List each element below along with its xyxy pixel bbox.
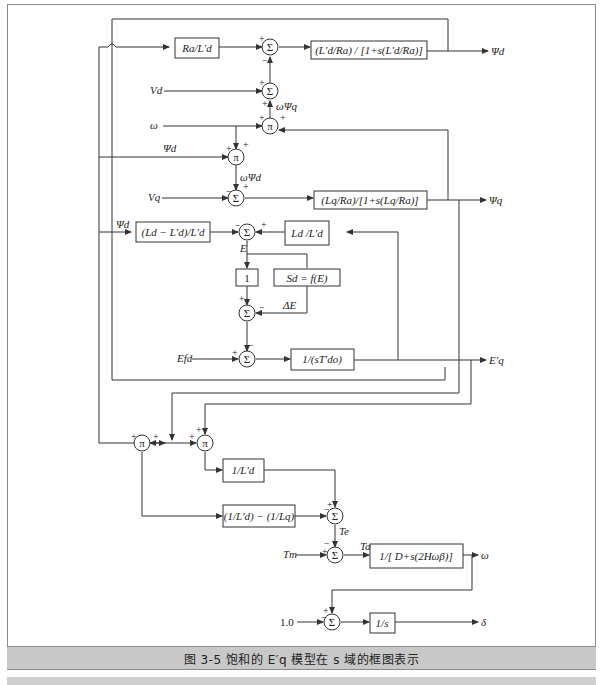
label-te: Te xyxy=(339,525,349,537)
block-field-transfer: 1/(sT′do) xyxy=(291,349,354,370)
label-omega-out: ω xyxy=(481,549,489,561)
label-tm-in: Tm xyxy=(283,548,297,560)
svg-text:+: + xyxy=(262,98,268,109)
svg-text:1/(sT′do): 1/(sT′do) xyxy=(302,353,342,366)
block-swing-equation: 1/[ D+s(2Hωβ)] xyxy=(370,544,463,568)
label-one-in: 1.0 xyxy=(280,616,294,628)
svg-text:−: − xyxy=(321,612,327,623)
sum-node-delta-e: Σ xyxy=(239,305,255,321)
label-psi-d-in: Ψd xyxy=(163,142,177,154)
label-delta-out: δ xyxy=(481,616,487,628)
block-integrator: 1/s xyxy=(370,613,395,633)
wire-left-psi-d-bus xyxy=(99,47,165,443)
svg-text:Σ: Σ xyxy=(233,192,239,204)
sum-node-efd: Σ xyxy=(239,351,255,367)
svg-text:+: + xyxy=(196,424,202,435)
svg-text:+: + xyxy=(232,347,238,358)
label-ta: Ta xyxy=(360,540,371,552)
block-psi-d-transfer: (L′d/Ra) / [1+s(L′d/Ra)] xyxy=(311,41,427,59)
label-vd-in: Vd xyxy=(150,84,163,96)
svg-text:+: + xyxy=(243,139,249,150)
block-inv-ld: 1/L′d xyxy=(223,459,264,482)
svg-text:(1/L′d) − (1/Lq): (1/L′d) − (1/Lq) xyxy=(224,510,295,523)
svg-text:+: + xyxy=(259,77,265,88)
svg-text:−: − xyxy=(226,186,232,197)
svg-text:1/[ D+s(2Hωβ)]: 1/[ D+s(2Hωβ)] xyxy=(379,550,453,563)
svg-text:+: + xyxy=(153,431,159,442)
caption-text: 图 3-5 饱和的 E′q 模型在 s 域的框图表示 xyxy=(184,650,420,667)
sum-node-ta: Σ xyxy=(327,547,343,563)
svg-text:Σ: Σ xyxy=(329,616,335,628)
svg-text:Σ: Σ xyxy=(267,41,273,53)
svg-text:Σ: Σ xyxy=(267,85,273,97)
block-ld-diff: (Ld − L′d)/L′d xyxy=(136,222,210,242)
node-signs: + − + + + + + + − + − + + − + − + + + + … xyxy=(131,33,333,623)
svg-text:−: − xyxy=(262,55,268,66)
label-omega-psi-d: ωΨd xyxy=(240,171,262,183)
svg-text:1/s: 1/s xyxy=(376,617,389,629)
block-psi-q-transfer: (Lq/Ra)/[1+s(Lq/Ra)] xyxy=(314,191,427,209)
block-unity: 1 xyxy=(236,269,258,286)
svg-text:(Ld − L′d)/L′d: (Ld − L′d)/L′d xyxy=(142,226,205,239)
svg-text:Σ: Σ xyxy=(244,307,250,319)
svg-text:Σ: Σ xyxy=(332,549,338,561)
svg-text:+: + xyxy=(327,499,333,510)
label-eq-out: E′q xyxy=(488,354,504,366)
svg-text:+: + xyxy=(189,431,195,442)
block-ld-ratio: Ld /L′d xyxy=(285,221,329,245)
label-efd-in: Efd xyxy=(176,352,193,364)
svg-text:−: − xyxy=(248,340,254,351)
wire-ra-input xyxy=(99,44,169,47)
svg-text:+: + xyxy=(322,546,328,557)
label-omega-psi-q: ωΨq xyxy=(276,100,298,112)
label-vq-in: Vq xyxy=(148,191,161,203)
block-ld-lq-diff: (1/L′d) − (1/Lq) xyxy=(223,505,295,527)
sum-node-e: Σ xyxy=(239,224,255,240)
label-psi-d-out: Ψd xyxy=(491,45,505,57)
svg-text:(L′d/Ra) / [1+s(L′d/Ra)]: (L′d/Ra) / [1+s(L′d/Ra)] xyxy=(315,44,423,57)
label-delta-e: ΔE xyxy=(282,299,296,311)
block-ra-over-ld: Ra/L′d xyxy=(175,38,219,58)
svg-text:+: + xyxy=(226,143,232,154)
label-e: E xyxy=(239,242,247,254)
svg-text:1/L′d: 1/L′d xyxy=(232,464,255,476)
mul-node-right: π xyxy=(197,435,213,451)
svg-text:+: + xyxy=(261,219,267,230)
svg-text:−: − xyxy=(235,220,241,231)
svg-text:Σ: Σ xyxy=(244,353,250,365)
svg-text:π: π xyxy=(267,120,273,132)
svg-text:+: + xyxy=(280,112,286,123)
label-psi-q-out: Ψq xyxy=(489,194,503,206)
svg-text:(Lq/Ra)/[1+s(Lq/Ra)]: (Lq/Ra)/[1+s(Lq/Ra)] xyxy=(321,194,418,207)
svg-text:Σ: Σ xyxy=(332,510,338,522)
svg-text:+: + xyxy=(259,33,265,44)
svg-text:+: + xyxy=(131,431,137,442)
svg-text:−: − xyxy=(259,302,265,313)
figure-caption: 图 3-5 饱和的 E′q 模型在 s 域的框图表示 xyxy=(7,646,596,670)
svg-text:Ld /L′d: Ld /L′d xyxy=(290,227,323,239)
svg-text:Ra/L′d: Ra/L′d xyxy=(181,42,212,54)
block-diagram: Ra/L′d (L′d/Ra) / [1+s(L′d/Ra)] (Lq/Ra)/… xyxy=(0,0,602,685)
svg-text:π: π xyxy=(139,437,145,449)
svg-text:+: + xyxy=(239,293,245,304)
svg-text:Σ: Σ xyxy=(244,226,250,238)
svg-text:Sd = f(E): Sd = f(E) xyxy=(286,272,327,285)
svg-text:1: 1 xyxy=(244,272,250,284)
signal-labels: Ψd Ψq E′q ω δ Vd Vq ω Ψd Ψd Efd Tm 1.0 ω… xyxy=(116,45,505,628)
svg-text:π: π xyxy=(233,151,239,163)
block-saturation: Sd = f(E) xyxy=(274,269,340,286)
label-psi-d-in2: Ψd xyxy=(116,218,130,230)
svg-text:+: + xyxy=(259,112,265,123)
svg-text:π: π xyxy=(202,437,208,449)
page-bottom-strip xyxy=(7,677,596,685)
label-omega-in: ω xyxy=(150,119,158,131)
